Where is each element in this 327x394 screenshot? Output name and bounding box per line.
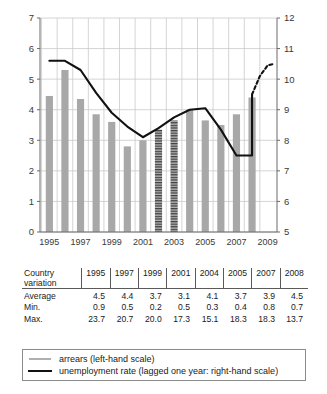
x-tick-label-1997: 1997 [71,237,91,247]
line-swatch-icon [27,366,53,376]
table-body: Average 4.5 4.4 3.7 3.1 4.1 3.7 3.9 4.5 … [22,289,308,326]
bar-2003 [171,120,178,232]
x-tick-label-1999: 1999 [102,237,122,247]
legend-item-unemployment: unemployment rate (lagged one year: righ… [27,365,301,377]
column-header-2007: 2007 [252,268,280,289]
bar-2007 [233,114,240,232]
corner-label-line1: Country [24,268,77,278]
x-tick-label-2003: 2003 [164,237,184,247]
x-tick-label-2005: 2005 [195,237,215,247]
table-row: Average 4.5 4.4 3.7 3.1 4.1 3.7 3.9 4.5 [22,289,308,302]
cell-max-2007: 18.3 [252,313,280,326]
bar-2004 [186,110,193,232]
table-row: Min. 0.9 0.5 0.2 0.5 0.3 0.4 0.8 0.7 [22,301,308,312]
chart-legend: arrears (left-hand scale) unemployment r… [22,349,306,381]
cell-min-2001: 0.5 [167,301,195,312]
left-tick-label-0: 0 [29,226,34,237]
cell-min-1997: 0.5 [110,301,138,312]
bar-1996 [61,70,68,232]
row-label-min: Min. [22,301,82,312]
x-tick-label-2007: 2007 [226,237,246,247]
bar-1998 [93,114,100,232]
column-header-1997: 1997 [110,268,138,289]
cell-max-2008: 13.7 [280,313,308,326]
table-corner-header: Country variation [22,268,82,289]
cell-max-1999: 20.0 [138,313,166,326]
table-row: Max. 23.7 20.7 20.0 17.3 15.1 18.3 18.3 … [22,313,308,326]
row-label-average: Average [22,289,82,302]
chart-page: 01234567 56789101112 1995199719992001200… [0,0,327,394]
cell-average-2007: 3.9 [252,289,280,302]
right-tick-label-9: 9 [284,104,289,115]
column-header-2004: 2004 [195,268,223,289]
right-tick-label-12: 12 [284,12,295,23]
cell-min-1999: 0.2 [138,301,166,312]
right-tick-label-8: 8 [284,135,289,146]
left-tick-label-1: 1 [29,196,34,207]
left-axis-tick-labels: 01234567 [29,12,34,237]
cell-average-1995: 4.5 [82,289,110,302]
bar-1999 [108,122,115,232]
bar-2005 [202,120,209,232]
left-tick-label-5: 5 [29,74,34,85]
cell-max-2001: 17.3 [167,313,195,326]
x-tick-label-1995: 1995 [39,237,59,247]
cell-average-1997: 4.4 [110,289,138,302]
cell-min-1995: 0.9 [82,301,110,312]
column-header-2008: 2008 [280,268,308,289]
bar-1997 [77,99,84,232]
country-variation-table: Country variation 1995 1997 1999 2001 20… [22,268,308,326]
cell-min-2007: 0.8 [252,301,280,312]
column-header-1999: 1999 [138,268,166,289]
left-tick-label-7: 7 [29,12,34,23]
column-header-1995: 1995 [82,268,110,289]
bar-swatch-icon [27,354,53,364]
left-tick-label-3: 3 [29,135,34,146]
cell-average-2001: 3.1 [167,289,195,302]
right-tick-label-11: 11 [284,43,294,54]
right-tick-label-5: 5 [284,226,289,237]
cell-max-1997: 20.7 [110,313,138,326]
x-tick-label-2009: 2009 [258,237,278,247]
right-tick-label-10: 10 [284,74,295,85]
cell-max-2005: 18.3 [223,313,251,326]
x-axis-tick-labels: 19951997199920012003200520072009 [39,237,277,247]
legend-label-unemployment: unemployment rate (lagged one year: righ… [59,366,278,376]
bar-2002 [155,130,162,232]
cell-min-2005: 0.4 [223,301,251,312]
corner-label-line2: variation [24,278,77,288]
row-label-max: Max. [22,313,82,326]
table-header-row: Country variation 1995 1997 1999 2001 20… [22,268,308,289]
bar-2001 [139,140,146,232]
column-header-2001: 2001 [167,268,195,289]
cell-average-2004: 4.1 [195,289,223,302]
bar-1995 [46,96,53,232]
cell-min-2004: 0.3 [195,301,223,312]
cell-average-2005: 3.7 [223,289,251,302]
bar-2000 [124,146,131,232]
cell-average-1999: 3.7 [138,289,166,302]
arrears-unemployment-chart: 01234567 56789101112 1995199719992001200… [0,0,327,266]
right-tick-label-6: 6 [284,196,289,207]
cell-min-2008: 0.7 [280,301,308,312]
right-tick-label-7: 7 [284,165,289,176]
legend-label-arrears: arrears (left-hand scale) [59,354,155,364]
legend-item-arrears: arrears (left-hand scale) [27,353,301,365]
bar-2006 [217,125,224,232]
data-table: Country variation 1995 1997 1999 2001 20… [22,268,308,326]
left-tick-label-6: 6 [29,43,34,54]
cell-average-2008: 4.5 [280,289,308,302]
x-tick-label-2001: 2001 [133,237,153,247]
cell-max-1995: 23.7 [82,313,110,326]
table-head: Country variation 1995 1997 1999 2001 20… [22,268,308,289]
left-tick-label-2: 2 [29,165,34,176]
column-header-2005: 2005 [223,268,251,289]
right-axis-tick-labels: 56789101112 [284,12,295,237]
left-tick-label-4: 4 [29,104,34,115]
chart-svg: 01234567 56789101112 1995199719992001200… [0,0,327,266]
cell-max-2004: 15.1 [195,313,223,326]
